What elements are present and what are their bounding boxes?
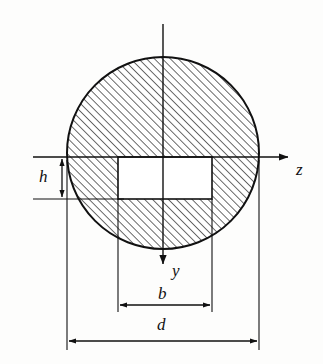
dimension-label-b: b [158, 285, 167, 302]
dimension-label-d: d [157, 316, 166, 333]
axis-label-z: z [296, 161, 303, 178]
rectangular-hole [118, 157, 212, 199]
axis-label-y: y [172, 262, 180, 279]
dimension-label-h: h [39, 168, 48, 185]
figure-container: z y h b d [0, 0, 323, 364]
technical-diagram [0, 0, 323, 364]
